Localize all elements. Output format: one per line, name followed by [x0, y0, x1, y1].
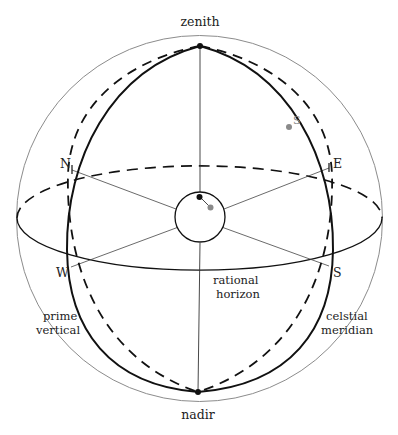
- observer-sun-marker: [208, 205, 214, 211]
- spoke-east: [224, 168, 329, 209]
- celestial-meridian-label-line1: celstial: [326, 309, 368, 323]
- nadir-point: [195, 389, 201, 395]
- zenith-point: [197, 43, 203, 49]
- sun-label: S: [293, 114, 301, 127]
- sun-point: [286, 124, 292, 130]
- diagram-canvas: zenith nadir N E W S S rational horizon …: [0, 0, 398, 435]
- observer-marker: [197, 194, 203, 200]
- spoke-north: [72, 170, 176, 209]
- south-label: S: [333, 265, 342, 280]
- zenith-label: zenith: [180, 14, 219, 29]
- horizon-label-line2: horizon: [216, 287, 260, 301]
- prime-vertical-label-line1: prime: [43, 309, 77, 323]
- nadir-label: nadir: [181, 407, 215, 422]
- prime-vertical-label-line2: vertical: [35, 323, 80, 337]
- north-label: N: [60, 156, 71, 171]
- west-label: W: [56, 265, 69, 280]
- east-label: E: [333, 156, 342, 171]
- spoke-west: [71, 225, 184, 267]
- spoke-south: [216, 225, 329, 266]
- celestial-sphere-diagram: zenith nadir N E W S S rational horizon …: [0, 0, 398, 435]
- zenith-nadir-axis-lower: [198, 243, 200, 392]
- horizon-label-line1: rational: [213, 273, 259, 287]
- celestial-meridian-label-line2: meridian: [321, 323, 374, 337]
